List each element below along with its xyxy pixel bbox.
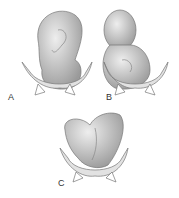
panel-label-a: A — [8, 92, 14, 102]
panel-b-illustration — [103, 10, 168, 95]
panel-c-illustration — [60, 113, 128, 182]
panel-label-c: C — [58, 178, 65, 188]
panel-label-b: B — [106, 92, 112, 102]
panel-a-illustration — [22, 11, 92, 95]
figure-canvas: A B C — [0, 0, 179, 198]
